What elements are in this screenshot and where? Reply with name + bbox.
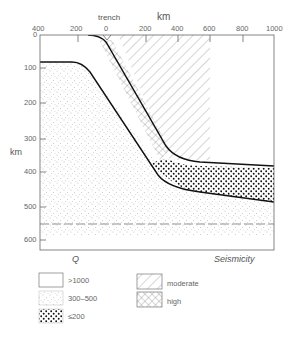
subduction-zone-diagram: trench km 400 200 0 200 400 600 800 1000… <box>0 0 292 337</box>
legend-label: moderate <box>167 279 199 288</box>
legend-swatch-cross <box>137 292 162 307</box>
legend-label: >1000 <box>68 276 89 285</box>
legend-swatch-fine-dots <box>39 291 63 305</box>
legend-swatch-blank <box>39 273 63 287</box>
legend: >1000 300–500 ≤200 moderate high <box>39 273 199 323</box>
x-tick: 400 <box>171 24 184 33</box>
x-tick: 200 <box>70 24 83 33</box>
legend-label: high <box>167 297 181 306</box>
top-axis-unit: km <box>157 11 170 22</box>
x-tick: 600 <box>203 24 216 33</box>
x-tick: 0 <box>104 24 108 33</box>
trench-marker <box>103 35 111 40</box>
legend-label: 300–500 <box>68 294 97 303</box>
y-tick: 400 <box>24 167 37 176</box>
q-label: Q <box>72 254 79 264</box>
trench-label: trench <box>98 13 120 22</box>
y-tick: 500 <box>24 202 37 211</box>
legend-label: ≤200 <box>68 312 85 321</box>
y-tick: 200 <box>24 98 37 107</box>
legend-swatch-coarse-dots <box>39 309 63 323</box>
y-tick: 600 <box>24 235 37 244</box>
x-tick: 200 <box>139 24 152 33</box>
y-tick: 300 <box>24 134 37 143</box>
x-tick: 800 <box>236 24 249 33</box>
y-tick: 0 <box>33 30 37 39</box>
seismicity-label: Seismicity <box>214 254 255 264</box>
left-axis-unit: km <box>10 147 22 157</box>
y-tick: 100 <box>24 63 37 72</box>
x-tick: 1000 <box>266 24 283 33</box>
legend-swatch-diagonal <box>137 274 162 289</box>
